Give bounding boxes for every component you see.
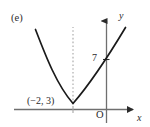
- vertex-coordinate-label: (−2, 3): [27, 96, 54, 106]
- y-intercept-label: 7: [92, 53, 97, 63]
- y-axis-label: y: [119, 11, 123, 21]
- part-label: (e): [11, 13, 23, 24]
- x-axis-label: x: [137, 113, 141, 123]
- origin-label: O: [96, 110, 104, 121]
- parabola-curve: [36, 28, 126, 104]
- parabola-figure: (e) (−2, 3) 7 O y x: [0, 0, 150, 127]
